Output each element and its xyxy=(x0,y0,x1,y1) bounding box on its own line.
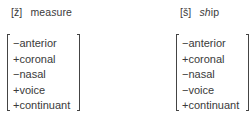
phonetic-symbol: [š] xyxy=(180,6,191,18)
feature-item: −anterior xyxy=(182,36,239,52)
segment-heading: [ž] measure xyxy=(11,6,72,18)
example-word: measure xyxy=(30,6,72,18)
right-bracket xyxy=(246,34,249,111)
example-word: ship xyxy=(199,6,219,18)
feature-item: +voice xyxy=(13,83,70,99)
feature-item: +continuant xyxy=(13,98,70,114)
feature-item: −nasal xyxy=(13,67,70,83)
example-word-prefix: mea xyxy=(30,6,51,18)
example-word-suffix: ip xyxy=(211,6,219,18)
feature-item: +coronal xyxy=(13,52,70,68)
feature-item: −voice xyxy=(182,83,239,99)
feature-matrix: −anterior +coronal −nasal +voice +contin… xyxy=(7,34,80,111)
right-bracket xyxy=(77,34,80,111)
example-word-suffix: ure xyxy=(57,6,72,18)
feature-item: −nasal xyxy=(182,67,239,83)
feature-item: +continuant xyxy=(182,98,239,114)
phonetic-symbol: [ž] xyxy=(11,6,22,18)
example-word-highlight: sh xyxy=(199,6,210,18)
left-bracket xyxy=(176,34,179,111)
feature-item: +coronal xyxy=(182,52,239,68)
feature-matrix: −anterior +coronal −nasal −voice +contin… xyxy=(176,34,249,111)
feature-list: −anterior +coronal −nasal +voice +contin… xyxy=(13,36,70,114)
left-bracket xyxy=(7,34,10,111)
feature-list: −anterior +coronal −nasal −voice +contin… xyxy=(182,36,239,114)
segment-heading: [š] ship xyxy=(180,6,219,18)
feature-item: −anterior xyxy=(13,36,70,52)
